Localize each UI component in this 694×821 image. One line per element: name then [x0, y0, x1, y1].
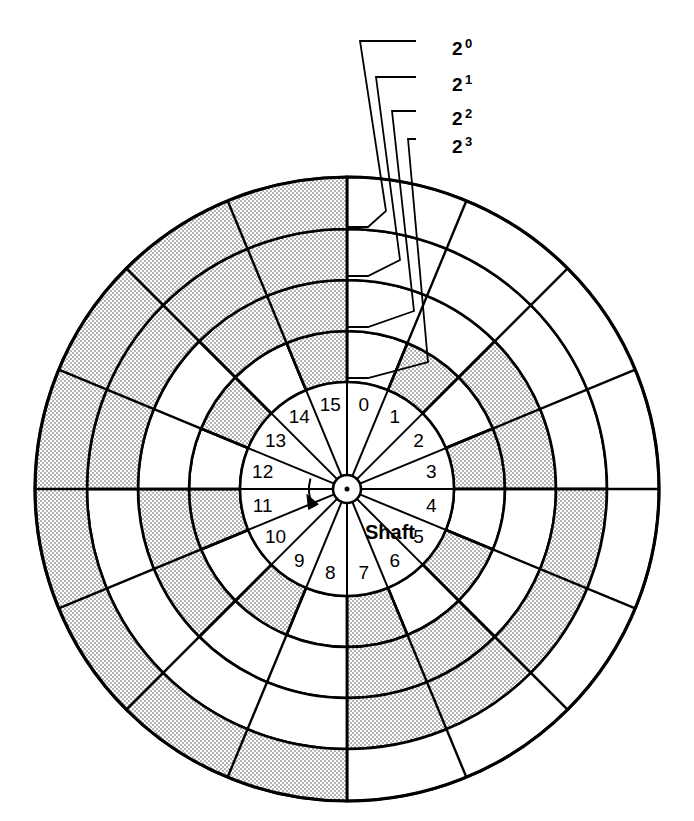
hub-center-dot — [345, 487, 350, 492]
sector-number-6: 6 — [389, 550, 400, 571]
sector-number-14: 14 — [289, 406, 311, 427]
sector-number-2: 2 — [413, 430, 424, 451]
sector-number-9: 9 — [294, 550, 305, 571]
track-label-track-2-1: 21 — [452, 72, 472, 95]
sector-number-8: 8 — [325, 562, 336, 583]
track-label-base: 2 — [452, 74, 463, 95]
sector-number-0: 0 — [358, 394, 369, 415]
track-label-track-2-0: 20 — [452, 36, 472, 59]
sector-number-13: 13 — [265, 430, 286, 451]
track-label-base: 2 — [452, 38, 463, 59]
sector-number-3: 3 — [426, 461, 437, 482]
track-label-exponent: 2 — [465, 106, 472, 121]
sector-number-11: 11 — [253, 495, 273, 516]
encoder-figure-container: 0123456789101112131415 Shaft 20212223 — [0, 0, 694, 821]
track-labels: 20212223 — [452, 36, 472, 157]
sector-number-15: 15 — [320, 394, 341, 415]
track-label-track-2-3: 23 — [452, 134, 472, 157]
track-label-exponent: 3 — [465, 134, 472, 149]
sector-number-4: 4 — [426, 495, 437, 516]
shaft-label: Shaft — [365, 521, 415, 543]
sector-number-12: 12 — [252, 461, 273, 482]
track-label-track-2-2: 22 — [452, 106, 472, 129]
sector-number-10: 10 — [265, 526, 286, 547]
track-label-base: 2 — [452, 136, 463, 157]
track-label-exponent: 1 — [465, 72, 472, 87]
sector-number-7: 7 — [358, 562, 369, 583]
track-label-exponent: 0 — [465, 36, 472, 51]
sector-number-1: 1 — [389, 406, 400, 427]
absolute-shaft-encoder-diagram: 0123456789101112131415 Shaft 20212223 — [0, 0, 694, 821]
track-label-base: 2 — [452, 108, 463, 129]
shaft-hub — [333, 475, 361, 503]
